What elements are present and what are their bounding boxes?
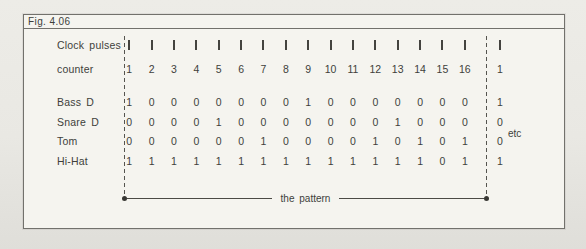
clock-pulse-icon — [319, 38, 341, 52]
title-divider-line — [24, 28, 564, 29]
pulse-bar-icon — [262, 40, 264, 50]
figure-number-label: Fig. 4.06 — [28, 16, 71, 27]
step-value: 1 — [140, 154, 162, 168]
pulse-bar-icon — [307, 40, 309, 50]
pulse-bar-icon — [419, 40, 421, 50]
step-value: 1 — [118, 154, 140, 168]
step-value: 1 — [163, 154, 185, 168]
step-value: 1 — [409, 134, 431, 148]
row-bass-d: Bass D10000000100000001 — [24, 95, 564, 109]
step-value: 1 — [454, 134, 476, 148]
step-value: 0 — [163, 95, 185, 109]
clock-pulse-icon — [185, 38, 207, 52]
step-value: 5 — [208, 62, 230, 76]
row-label: counter — [57, 62, 93, 76]
step-value: 0 — [319, 134, 341, 148]
row-tom: Tom00000010000101010 — [24, 134, 564, 148]
step-value: 0 — [252, 115, 274, 129]
pulse-bar-icon — [151, 40, 153, 50]
step-value: 0 — [118, 115, 140, 129]
pattern-line-right — [339, 198, 484, 199]
pulse-bar-icon — [128, 40, 130, 50]
step-value: 0 — [163, 134, 185, 148]
figure-box: Fig. 4.06 Clock pulsescounter12345678910… — [23, 14, 565, 229]
step-value: 0 — [230, 134, 252, 148]
pattern-line-left — [127, 198, 272, 199]
step-value: 1 — [185, 154, 207, 168]
step-cells: 1000000010000000 — [118, 95, 476, 109]
step-value: 0 — [454, 95, 476, 109]
clock-pulse-icon — [208, 38, 230, 52]
pulse-bar-icon — [195, 40, 197, 50]
step-value: 1 — [252, 134, 274, 148]
step-value: 0 — [342, 115, 364, 129]
pulse-bar-icon — [218, 40, 220, 50]
row-label: Bass D — [57, 95, 94, 109]
step-value: 1 — [252, 154, 274, 168]
step-value: 7 — [252, 62, 274, 76]
step-value: 0 — [140, 95, 162, 109]
step-value: 1 — [364, 154, 386, 168]
step-value: 3 — [163, 62, 185, 76]
clock-pulse-icon — [140, 38, 162, 52]
step-value: 1 — [230, 154, 252, 168]
step-cells: 1111111111111101 — [118, 154, 476, 168]
step-cells — [118, 38, 476, 52]
step-value: 0 — [163, 115, 185, 129]
step-value: 0 — [297, 115, 319, 129]
step-value: 0 — [208, 95, 230, 109]
step-value: 1 — [208, 154, 230, 168]
step-value: 1 — [297, 95, 319, 109]
step-value: 0 — [118, 134, 140, 148]
step-value: 0 — [185, 134, 207, 148]
step-value: 0 — [230, 95, 252, 109]
clock-pulse-icon — [275, 38, 297, 52]
repeat-step-value: 1 — [493, 154, 507, 168]
step-value: 0 — [319, 95, 341, 109]
step-value: 1 — [208, 115, 230, 129]
step-value: 0 — [364, 95, 386, 109]
repeat-step-value: 1 — [493, 95, 507, 109]
step-value: 12 — [364, 62, 386, 76]
step-value: 1 — [364, 134, 386, 148]
step-value: 6 — [230, 62, 252, 76]
clock-pulse-icon — [342, 38, 364, 52]
step-value: 0 — [387, 134, 409, 148]
pattern-end-dashed-line — [486, 36, 487, 199]
step-cells: 0000001000010101 — [118, 134, 476, 148]
step-value: 1 — [342, 154, 364, 168]
step-value: 2 — [140, 62, 162, 76]
step-value: 0 — [275, 134, 297, 148]
step-value: 1 — [387, 115, 409, 129]
step-value: 0 — [185, 95, 207, 109]
step-value: 0 — [140, 115, 162, 129]
step-value: 1 — [275, 154, 297, 168]
step-value: 9 — [297, 62, 319, 76]
step-value: 0 — [252, 95, 274, 109]
step-cells: 12345678910111213141516 — [118, 62, 476, 76]
step-value: 0 — [297, 134, 319, 148]
pulse-bar-icon — [240, 40, 242, 50]
step-value: 4 — [185, 62, 207, 76]
step-value: 0 — [431, 95, 453, 109]
pulse-bar-icon — [441, 40, 443, 50]
clock-pulse-icon — [387, 38, 409, 52]
clock-pulse-repeat-icon — [493, 38, 507, 52]
step-value: 8 — [275, 62, 297, 76]
clock-pulse-icon — [409, 38, 431, 52]
step-value: 1 — [409, 154, 431, 168]
row-counter: counter123456789101112131415161 — [24, 62, 564, 76]
clock-pulse-icon — [230, 38, 252, 52]
step-value: 0 — [431, 134, 453, 148]
step-value: 0 — [431, 154, 453, 168]
step-value: 11 — [342, 62, 364, 76]
step-value: 1 — [297, 154, 319, 168]
step-value: 0 — [140, 134, 162, 148]
pulse-bar-icon — [330, 40, 332, 50]
pattern-extent: the pattern — [122, 192, 489, 205]
row-label: Snare D — [57, 115, 99, 129]
row-hi-hat: Hi-Hat11111111111111011 — [24, 154, 564, 168]
step-value: 16 — [454, 62, 476, 76]
step-value: 0 — [342, 95, 364, 109]
scanned-figure-page: Fig. 4.06 Clock pulsescounter12345678910… — [0, 0, 586, 249]
